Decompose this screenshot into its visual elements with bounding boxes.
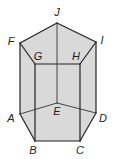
- vertex-label-J: J: [53, 6, 60, 18]
- vertex-label-H: H: [72, 50, 80, 62]
- vertex-label-D: D: [99, 112, 107, 124]
- vertex-label-B: B: [29, 144, 36, 156]
- vertex-label-E: E: [53, 105, 61, 117]
- vertex-label-I: I: [100, 34, 103, 46]
- vertex-label-A: A: [6, 112, 14, 124]
- vertex-label-G: G: [34, 50, 43, 62]
- vertex-label-C: C: [76, 144, 84, 156]
- pentagonal-prism-figure: J F I G H A E D B C: [0, 0, 113, 159]
- vertex-label-F: F: [8, 35, 16, 47]
- prism-diagram: J F I G H A E D B C: [0, 0, 113, 159]
